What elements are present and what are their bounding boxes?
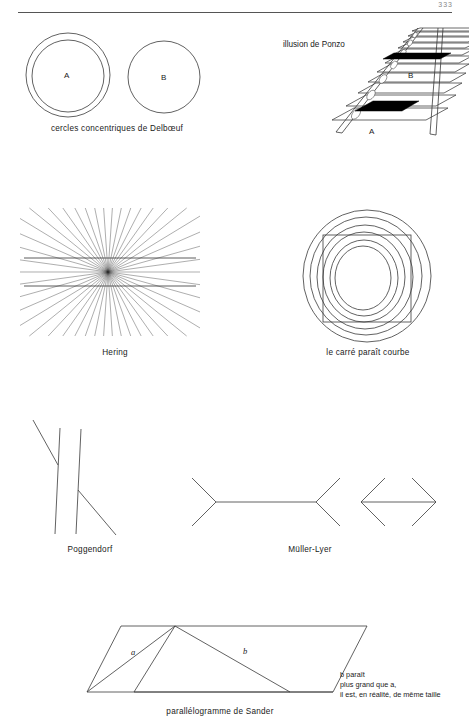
sander-note-line-1: b paraît: [340, 670, 441, 680]
figure-delboeuf: A B: [22, 30, 212, 122]
ponzo-label-b: B: [408, 71, 413, 80]
figure-hering: [20, 208, 200, 336]
ponzo-label-a: A: [369, 127, 374, 136]
figure-muller-lyer: [188, 472, 438, 534]
sander-note-line-3: il est, en réalité, de même taille: [340, 690, 441, 700]
caption-carre-courbe: le carré paraît courbe: [288, 348, 448, 357]
caption-delboeuf: cercles concentriques de Delbœuf: [22, 124, 212, 133]
figure-sander: a b: [85, 620, 380, 700]
sander-note-line-2: plus grand que a,: [340, 680, 441, 690]
caption-hering: Hering: [20, 348, 210, 357]
page-header-rule: [18, 12, 452, 13]
figure-ponzo: A B: [326, 28, 468, 150]
sander-label-b: b: [243, 646, 247, 656]
caption-muller-lyer: Müller-Lyer: [250, 545, 370, 554]
page-number: 333: [438, 0, 453, 9]
sander-label-a: a: [131, 647, 135, 657]
caption-sander: parallélogramme de Sander: [130, 707, 310, 716]
sander-note: b paraît plus grand que a, il est, en ré…: [340, 670, 441, 700]
figure-poggendorf: [28, 415, 138, 537]
figure-carre-courbe: [300, 208, 440, 343]
caption-poggendorf: Poggendorf: [10, 545, 170, 554]
delboeuf-label-b: B: [161, 73, 166, 82]
delboeuf-label-a: A: [64, 71, 69, 80]
